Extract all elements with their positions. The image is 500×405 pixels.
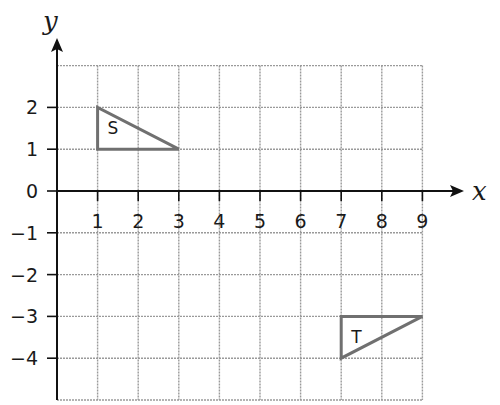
x-tick-label: 8	[376, 210, 388, 232]
x-tick-label: 4	[213, 210, 225, 232]
x-tick-label: 1	[92, 210, 104, 232]
triangle-label-T: T	[350, 327, 362, 347]
y-tick-label: 1	[26, 138, 38, 160]
coordinate-plane: 123456789210−1−2−3−4 ST x y	[0, 0, 500, 405]
y-tick-label: −1	[10, 222, 38, 244]
y-tick-label: 0	[26, 180, 38, 202]
x-tick-label: 2	[132, 210, 144, 232]
y-axis-label: y	[42, 6, 58, 36]
y-tick-label: 2	[26, 96, 38, 118]
triangle-label-S: S	[108, 118, 119, 138]
x-tick-label: 7	[335, 210, 347, 232]
x-tick-label: 3	[173, 210, 185, 232]
y-tick-label: −2	[10, 264, 38, 286]
x-axis-label: x	[472, 176, 487, 206]
x-tick-label: 5	[254, 210, 266, 232]
x-tick-label: 6	[295, 210, 307, 232]
y-tick-label: −3	[10, 305, 38, 327]
x-tick-label: 9	[416, 210, 428, 232]
coordinate-grid-diagram: 123456789210−1−2−3−4 ST x y	[0, 0, 500, 405]
y-tick-label: −4	[10, 347, 38, 369]
